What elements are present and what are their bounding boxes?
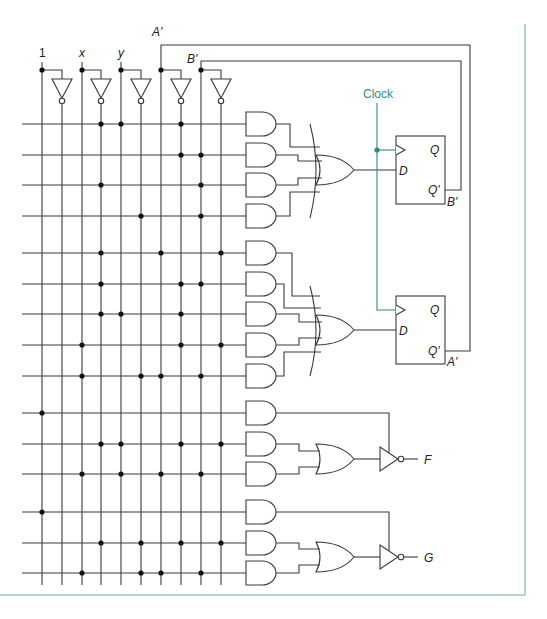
and-gate-icon: [246, 302, 276, 326]
inverter-input-wire: [42, 70, 62, 79]
connection-dots: [39, 67, 223, 575]
or-gates: [276, 124, 396, 572]
junction-dot: [79, 373, 84, 378]
junction-dot: [138, 570, 143, 575]
and-gates: [246, 112, 276, 585]
inverter-icon: [52, 79, 72, 98]
circuit-diagram: 1xyA'B' DQQ'B'DQQ'A' Clock FG: [0, 0, 547, 619]
or-input-bus-arc: [310, 286, 316, 376]
and-gate-icon: [246, 432, 276, 456]
junction-dot: [79, 67, 84, 72]
and-gate-icon: [246, 364, 276, 388]
d-input-label: D: [399, 324, 408, 338]
junction-dot: [218, 250, 223, 255]
or-input-bus-arc: [310, 124, 316, 218]
junction-dot: [39, 509, 44, 514]
inverter-bubble-icon: [98, 98, 103, 103]
input-inverters: [42, 70, 231, 104]
and-to-or-wire: [276, 543, 320, 549]
clock-junction-dot: [374, 147, 379, 152]
inverter-icon: [171, 79, 191, 98]
inverter-icon: [211, 79, 231, 98]
junction-dot: [178, 540, 183, 545]
and-to-or-wire: [276, 467, 320, 474]
junction-dot: [118, 121, 123, 126]
q-bar-output-label: Q': [428, 183, 440, 197]
d-input-label: D: [399, 164, 408, 178]
inverter-bubble-icon: [59, 98, 64, 103]
or-gate-icon: [316, 542, 354, 572]
and-gate-icon: [246, 500, 276, 524]
junction-dot: [39, 410, 44, 415]
or-gate-icon: [316, 315, 354, 345]
and-to-or-wire: [276, 253, 320, 296]
junction-dot: [158, 250, 163, 255]
inverter-bubble-icon: [218, 98, 223, 103]
inverter-icon: [91, 79, 111, 98]
and-gate-icon: [246, 173, 276, 197]
junction-dot: [198, 67, 203, 72]
inverter-bubble-icon: [398, 456, 404, 462]
q-bar-output-label: Q': [428, 344, 440, 358]
junction-dot: [198, 471, 203, 476]
input-grid: [22, 62, 246, 585]
feedback-label: B': [187, 52, 198, 66]
junction-dot: [178, 121, 183, 126]
junction-dot: [198, 182, 203, 187]
inverter-icon: [131, 79, 151, 98]
q-output-label: Q: [430, 303, 439, 317]
feedback-label: A': [151, 25, 163, 39]
output-label-f: F: [424, 453, 432, 467]
junction-dot: [158, 67, 163, 72]
junction-dot: [198, 570, 203, 575]
inverter-bubble-icon: [138, 98, 143, 103]
junction-dot: [178, 441, 183, 446]
junction-dot: [118, 471, 123, 476]
junction-dot: [198, 373, 203, 378]
or-gate-icon: [316, 444, 354, 474]
and-gate-icon: [246, 143, 276, 167]
and-gate-icon: [246, 272, 276, 296]
junction-dot: [98, 540, 103, 545]
input-label: x: [78, 46, 86, 60]
junction-dot: [98, 311, 103, 316]
input-label: y: [117, 46, 125, 60]
and-to-or-wire: [276, 565, 320, 573]
inverter-input-wire: [201, 70, 221, 79]
junction-dot: [218, 342, 223, 347]
junction-dot: [138, 540, 143, 545]
junction-dot: [178, 311, 183, 316]
and-gate-icon: [246, 204, 276, 228]
or-gate-icon: [316, 155, 354, 185]
junction-dot: [98, 182, 103, 187]
junction-dot: [218, 441, 223, 446]
flipflop-output-name: B': [447, 195, 458, 209]
junction-dot: [198, 213, 203, 218]
q-output-label: Q: [430, 143, 439, 157]
junction-dot: [178, 152, 183, 157]
inverter-bubble-icon: [398, 554, 404, 560]
clock-label: Clock: [363, 87, 394, 101]
inverter-input-wire: [161, 70, 181, 79]
junction-dot: [98, 441, 103, 446]
junction-dot: [118, 441, 123, 446]
junction-dot: [98, 121, 103, 126]
and-gate-icon: [246, 531, 276, 555]
junction-dot: [218, 540, 223, 545]
junction-dot: [79, 570, 84, 575]
junction-dot: [98, 281, 103, 286]
and-gate-icon: [246, 241, 276, 265]
junction-dot: [79, 471, 84, 476]
junction-dot: [198, 281, 203, 286]
junction-dot: [178, 281, 183, 286]
junction-dot: [158, 373, 163, 378]
d-flipflops: DQQ'B'DQQ'A': [396, 136, 458, 369]
junction-dot: [158, 471, 163, 476]
junction-dot: [118, 311, 123, 316]
junction-dot: [118, 67, 123, 72]
and-gate-icon: [246, 112, 276, 136]
clock-wire: [377, 103, 396, 310]
junction-dot: [39, 67, 44, 72]
junction-dot: [138, 213, 143, 218]
junction-dot: [158, 570, 163, 575]
